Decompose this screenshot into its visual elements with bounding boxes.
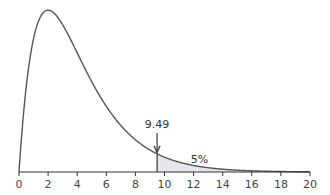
critical-value-label: 9.49: [145, 118, 170, 131]
x-tick-label: 20: [303, 178, 317, 191]
x-tick-label: 12: [187, 178, 201, 191]
x-tick-label: 18: [274, 178, 288, 191]
x-tick-label: 8: [132, 178, 139, 191]
x-tick-label: 14: [216, 178, 230, 191]
density-curve: [19, 10, 310, 172]
chi-square-chart: 02468101214161820 9.49 5%: [0, 0, 330, 195]
x-tick-label: 10: [158, 178, 172, 191]
x-tick-label: 4: [74, 178, 81, 191]
x-tick-label: 2: [45, 178, 52, 191]
arrow-icon: [154, 133, 160, 153]
x-axis-ticks: 02468101214161820: [16, 172, 318, 191]
x-tick-label: 0: [16, 178, 23, 191]
x-tick-label: 16: [245, 178, 259, 191]
x-tick-label: 6: [103, 178, 110, 191]
tail-percent-label: 5%: [191, 153, 208, 166]
